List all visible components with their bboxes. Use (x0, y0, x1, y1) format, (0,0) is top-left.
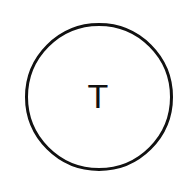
node-label: T (88, 79, 109, 113)
diagram-node-circle: T (25, 23, 173, 171)
